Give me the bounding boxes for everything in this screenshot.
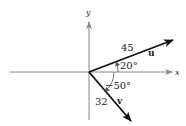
vector-diagram: y x 45 u 20° −50° 32 v — [0, 0, 186, 126]
v-angle-label: −50° — [105, 80, 131, 91]
x-axis-label: x — [175, 68, 180, 77]
angle-arc-u — [116, 62, 118, 72]
v-vector-label: v — [116, 96, 123, 106]
u-magnitude-label: 45 — [121, 42, 134, 53]
v-magnitude-label: 32 — [95, 96, 108, 107]
y-axis-label: y — [85, 8, 91, 17]
u-vector-label: u — [148, 48, 155, 58]
u-angle-label: 20° — [120, 60, 138, 71]
